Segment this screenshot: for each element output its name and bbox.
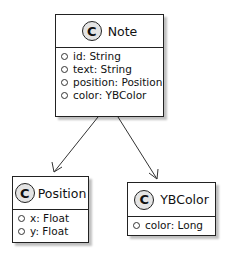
field-visibility-icon	[61, 79, 68, 86]
class-stereotype-icon: C	[82, 21, 102, 41]
attribute: id: String	[61, 50, 163, 63]
class-name: Note	[108, 24, 138, 39]
class-stereotype-icon: C	[15, 183, 35, 203]
class-stereotype-icon: C	[134, 190, 154, 210]
class-note[interactable]: C Note id: String text: String position:…	[55, 14, 164, 117]
attribute: position: Position	[61, 76, 163, 89]
attribute: y: Float	[18, 225, 88, 238]
field-visibility-icon	[18, 228, 25, 235]
attribute: x: Float	[18, 212, 88, 225]
attribute: color: Long	[133, 219, 215, 232]
class-name: YBColor	[160, 192, 209, 207]
field-visibility-icon	[61, 92, 68, 99]
class-name: Position	[38, 186, 87, 201]
attribute-list: id: String text: String position: Positi…	[56, 48, 163, 102]
class-header: C Note	[56, 15, 163, 48]
class-header: C YBColor	[128, 183, 215, 217]
field-visibility-icon	[133, 222, 140, 229]
class-ybcolor[interactable]: C YBColor color: Long	[127, 182, 216, 236]
attribute-list: color: Long	[128, 217, 215, 232]
field-visibility-icon	[18, 215, 25, 222]
attribute: color: YBColor	[61, 89, 163, 102]
field-visibility-icon	[61, 53, 68, 60]
class-position[interactable]: C Position x: Float y: Float	[12, 176, 89, 243]
class-header: C Position	[13, 177, 88, 210]
field-visibility-icon	[61, 66, 68, 73]
attribute: text: String	[61, 63, 163, 76]
attribute-list: x: Float y: Float	[13, 210, 88, 238]
